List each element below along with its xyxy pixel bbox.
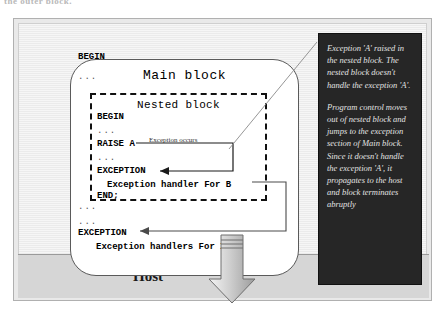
main-block-title: Main block — [71, 68, 298, 83]
main-block-dots-3: ... — [78, 217, 97, 227]
nested-block-title: Nested block — [92, 99, 265, 111]
main-block-exception-keyword: EXCEPTION — [78, 228, 127, 238]
nested-block-dots-1: ... — [97, 126, 116, 136]
callout-paragraph-2: Program control moves out of nested bloc… — [327, 101, 414, 211]
main-block-begin: BEGIN — [78, 52, 105, 62]
nested-block-raise-line: RAISE A — [97, 139, 135, 149]
callout-panel: Exception 'A' raised in the nested block… — [318, 33, 422, 285]
diagram-frame: Host Main block BEGIN ... ... ... EXCEPT… — [13, 18, 432, 301]
nested-block-handler-line: Exception handler For B — [107, 180, 231, 190]
nested-block-begin: BEGIN — [97, 112, 124, 122]
nested-block-dots-2: ... — [97, 153, 116, 163]
top-caption-text: the outer block. — [4, 0, 124, 5]
down-arrow-body — [209, 235, 255, 303]
exception-occurs-label: Exception occurs — [149, 136, 197, 144]
nested-block-end-line: END; — [97, 191, 119, 201]
main-block-dots-2: ... — [78, 202, 97, 212]
propagation-down-arrow — [207, 233, 257, 305]
diagram-screenshot: the outer block. Host Main block BEGIN .… — [0, 0, 445, 317]
nested-block-exception-keyword: EXCEPTION — [97, 166, 146, 176]
callout-paragraph-1: Exception 'A' raised in the nested block… — [327, 42, 414, 91]
main-block-dots-1: ... — [78, 72, 97, 82]
